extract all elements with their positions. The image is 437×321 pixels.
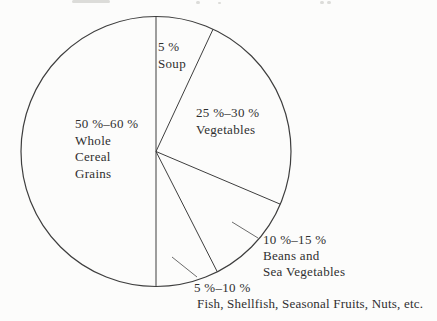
fish-name: Fish, Shellfish, Seasonal Fruits, Nuts, … xyxy=(197,296,423,312)
grains-percent: 50 %–60 % xyxy=(75,116,138,133)
scan-artifact xyxy=(327,1,331,4)
beans-name-line-2: Sea Vegetables xyxy=(263,264,345,280)
vegetables-name: Vegetables xyxy=(196,122,259,139)
soup-percent: 5 % xyxy=(158,39,186,56)
vegetables-percent: 25 %–30 % xyxy=(196,105,259,122)
grains-name-line-2: Cereal xyxy=(75,149,138,166)
slice-label-fish-etc: 5 %–10 % Fish, Shellfish, Seasonal Fruit… xyxy=(194,280,423,311)
pie-chart xyxy=(0,0,437,321)
slice-label-vegetables: 25 %–30 % Vegetables xyxy=(196,105,259,138)
scan-artifact xyxy=(196,1,200,4)
scan-artifact xyxy=(72,0,110,3)
grains-name-line-3: Grains xyxy=(75,166,138,183)
beans-percent: 10 %–15 % xyxy=(263,232,345,248)
slice-label-soup: 5 % Soup xyxy=(158,39,186,72)
grains-name-line-1: Whole xyxy=(75,133,138,150)
beans-leader-line xyxy=(232,222,258,238)
fish-percent: 5 %–10 % xyxy=(194,280,423,296)
slice-label-beans-and-sea-vegetables: 10 %–15 % Beans and Sea Vegetables xyxy=(263,232,345,280)
scanned-page: { "colors": { "ink": "#3e3e3e", "leader_… xyxy=(0,0,437,321)
slice-label-whole-cereal-grains: 50 %–60 % Whole Cereal Grains xyxy=(75,116,138,182)
beans-name-line-1: Beans and xyxy=(263,248,345,264)
scan-artifact xyxy=(218,2,221,4)
slice-boundary-line xyxy=(156,152,217,272)
fish-leader-line xyxy=(172,257,197,277)
soup-name: Soup xyxy=(158,56,186,73)
slice-boundary-line xyxy=(156,152,280,205)
scan-artifact xyxy=(320,1,324,4)
pie-figure: 5 % Soup 25 %–30 % Vegetables 50 %–60 % … xyxy=(0,0,437,321)
pie-slice-boundaries xyxy=(21,17,291,287)
